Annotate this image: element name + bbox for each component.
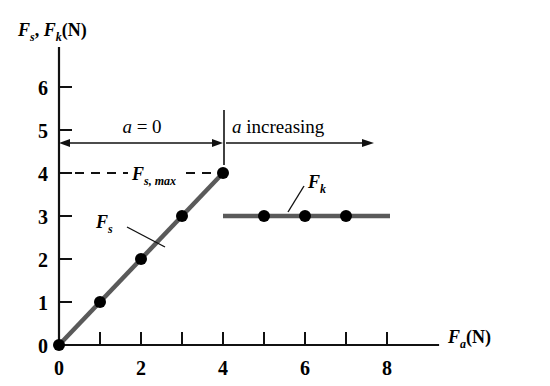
- kinetic-region-label: a increasing: [232, 116, 325, 137]
- friction-force-figure: 0 1 2 3 4 5 6 Fs, Fk(N) 0 2 4 6 8: [0, 0, 550, 386]
- static-region-rest: = 0: [132, 116, 162, 137]
- fk-point-5: [258, 210, 270, 222]
- fk-label-base: F: [307, 172, 320, 192]
- y-axis-ticks: [59, 87, 72, 345]
- fs-max-label: Fs, max: [131, 164, 176, 188]
- static-region-arrow: [59, 139, 223, 147]
- fs-max-base: F: [131, 164, 144, 184]
- x-axis-label-f: F: [447, 327, 460, 347]
- kinetic-region-arrow: [226, 139, 374, 147]
- arrowhead-right-icon: [212, 139, 223, 147]
- fs-point-0: [53, 339, 65, 351]
- x-tick-label-4: 4: [218, 357, 228, 379]
- fk-point-6: [299, 210, 311, 222]
- static-region-label: a = 0: [122, 116, 161, 137]
- y-tick-label-0: 0: [38, 335, 48, 357]
- y-axis-label-unit: (N): [62, 20, 87, 41]
- y-tick-label-5: 5: [38, 120, 48, 142]
- fk-label-sub: k: [320, 182, 326, 196]
- chart-canvas: 0 1 2 3 4 5 6 Fs, Fk(N) 0 2 4 6 8: [0, 0, 550, 386]
- fs-point-2: [135, 253, 147, 265]
- fs-point-4: [217, 167, 229, 179]
- fs-label-sub: s: [107, 222, 113, 236]
- fk-label-leader-line: [288, 186, 304, 212]
- kinetic-region-rest: increasing: [242, 116, 325, 137]
- x-tick-label-2: 2: [136, 357, 146, 379]
- y-axis-label-f1: F: [17, 20, 30, 40]
- x-axis-ticks: [59, 332, 387, 345]
- y-tick-label-2: 2: [38, 249, 48, 271]
- y-tick-label-3: 3: [38, 206, 48, 228]
- y-tick-label-1: 1: [38, 292, 48, 314]
- y-axis-label-f2: F: [43, 20, 56, 40]
- arrowhead-left-icon: [59, 139, 70, 147]
- y-tick-label-4: 4: [38, 163, 48, 185]
- fs-label-base: F: [95, 212, 108, 232]
- x-tick-label-8: 8: [382, 357, 392, 379]
- x-axis-label-unit: (N): [466, 327, 491, 348]
- arrowhead-right2-icon: [362, 139, 374, 147]
- fs-max-sub: s, max: [143, 174, 176, 188]
- y-tick-label-6: 6: [38, 77, 48, 99]
- fs-label: Fs: [95, 212, 113, 236]
- static-region-italic: a: [122, 116, 132, 137]
- fk-point-7: [340, 210, 352, 222]
- x-axis-label: Fa(N): [447, 327, 491, 351]
- fs-point-1: [94, 296, 106, 308]
- x-tick-label-6: 6: [300, 357, 310, 379]
- fk-label: Fk: [307, 172, 326, 196]
- fs-point-3: [176, 210, 188, 222]
- kinetic-region-italic: a: [232, 116, 242, 137]
- y-axis-label: Fs, Fk(N): [17, 20, 87, 44]
- x-tick-label-0: 0: [54, 357, 64, 379]
